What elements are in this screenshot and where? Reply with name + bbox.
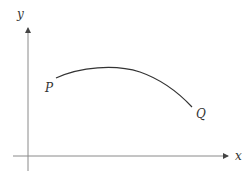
y-axis-label: y [16, 7, 24, 21]
point-p-label: P [44, 81, 54, 95]
point-q-label: Q [196, 107, 206, 121]
diagram-canvas: y x P Q [0, 0, 251, 178]
curve-p-to-q [56, 67, 192, 107]
x-axis-label: x [235, 149, 242, 163]
